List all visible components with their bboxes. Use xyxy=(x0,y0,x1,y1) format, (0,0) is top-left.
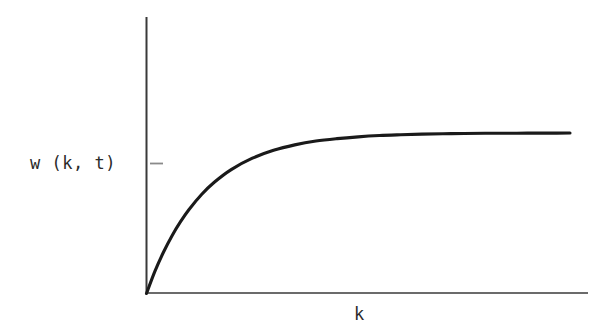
figure-canvas: w (k, t) k xyxy=(0,0,609,334)
y-axis-label: w (k, t) xyxy=(30,152,116,174)
x-axis-label: k xyxy=(354,303,365,325)
data-curve xyxy=(147,133,571,294)
